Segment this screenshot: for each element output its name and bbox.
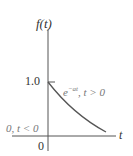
annotation-exponent: −at: [68, 85, 78, 93]
annotation-condition: , t > 0: [78, 86, 105, 98]
y-tick-label: 1.0: [25, 75, 40, 87]
y-axis-label: f(t): [36, 17, 52, 30]
negative-annotation: 0, t < 0: [6, 123, 38, 134]
x-axis-label: t: [119, 129, 122, 141]
positive-annotation: e−at, t > 0: [63, 86, 105, 98]
origin-label: 0: [38, 140, 44, 152]
